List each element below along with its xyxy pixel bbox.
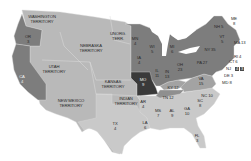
label-in: IN13 xyxy=(165,70,169,79)
label-washington: WASHINGTONTERRITORY xyxy=(28,15,56,24)
label-indian: INDIANTERRITORY xyxy=(114,97,137,106)
label-fl: FL3 xyxy=(195,134,200,143)
label-vt: VT5 xyxy=(219,35,224,44)
label-utah: UTAHTERRITORY xyxy=(42,65,65,74)
label-la: LA6 xyxy=(143,121,148,130)
label-il: IL11 xyxy=(155,69,159,78)
label-va: VA15 xyxy=(198,77,203,86)
label-mi: MI6 xyxy=(170,45,174,54)
label-tn: TN 12 xyxy=(163,96,174,101)
label-pa: PA 27 xyxy=(197,61,207,66)
label-wi: WI5 xyxy=(150,45,155,54)
label-tx: TX4 xyxy=(112,122,117,131)
label-ga: GA10 xyxy=(184,107,190,116)
label-ca: CA4 xyxy=(19,75,25,84)
label-mo: MO9 xyxy=(140,78,147,87)
label-ky: KY 12 xyxy=(168,86,179,91)
label-nj-b: 3 xyxy=(241,67,243,72)
label-or: OR3 xyxy=(25,35,31,44)
label-al: AL9 xyxy=(170,109,175,118)
label-nj: NJ xyxy=(226,67,231,72)
label-unorg: UNORG.TERR. xyxy=(110,32,126,41)
label-me: ME8 xyxy=(231,17,237,26)
label-md: MD 8 xyxy=(222,81,232,86)
label-ny: NY 35 xyxy=(204,48,215,53)
label-newmexico: NEW MEXICOTERRITORY xyxy=(58,99,84,108)
label-nj-a: 4 xyxy=(236,67,238,72)
label-de: DE 3 xyxy=(224,74,233,79)
label-sc: SC8 xyxy=(197,99,203,108)
label-mn: MN4 xyxy=(132,37,138,46)
label-ma: MA 13 xyxy=(234,41,245,46)
label-oh: OH23 xyxy=(177,63,183,72)
label-ms: MS7 xyxy=(155,109,161,118)
label-ar: AR4 xyxy=(140,100,146,109)
label-nebraska: NEBRASKATERRITORY xyxy=(79,44,102,53)
label-ia: IA4 xyxy=(137,56,141,65)
label-nh: NH 5 xyxy=(214,25,223,30)
label-ct: CT 6 xyxy=(229,60,238,65)
label-kansas: KANSASTERRITORY xyxy=(101,80,124,89)
